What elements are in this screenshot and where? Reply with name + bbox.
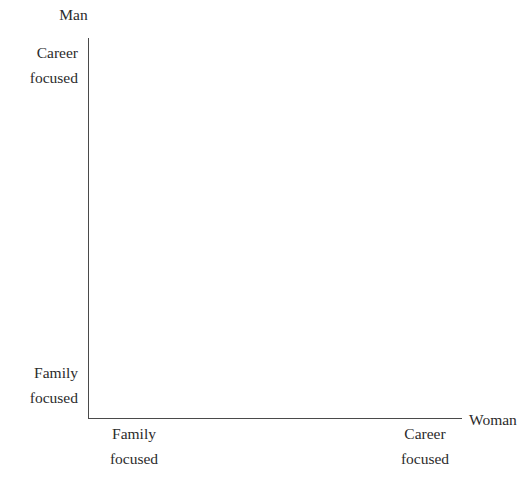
y-axis-title: Man <box>0 2 147 27</box>
x-axis-line <box>88 418 462 419</box>
x-axis-title: Woman <box>469 407 531 432</box>
plot-area <box>89 38 462 418</box>
y-axis-low-label: Family focused <box>0 360 78 410</box>
chart-canvas: Man Career focused Family focused Family… <box>0 0 531 477</box>
y-axis-line <box>88 38 89 419</box>
x-axis-high-label: Career focused <box>390 421 460 471</box>
x-axis-low-label: Family focused <box>99 421 169 471</box>
y-axis-high-label: Career focused <box>0 40 78 90</box>
